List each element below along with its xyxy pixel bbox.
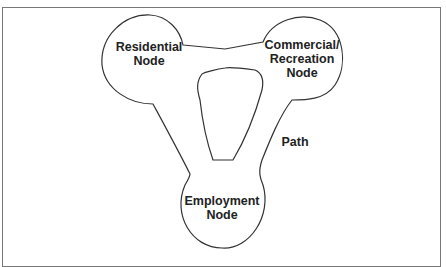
commercial-label-line2: Recreation xyxy=(262,52,342,66)
commercial-node-label: Commercial/ Recreation Node xyxy=(262,38,342,80)
residential-label-line1: Residential xyxy=(109,40,189,54)
residential-label-line2: Node xyxy=(109,54,189,68)
employment-node-label: Employment Node xyxy=(180,194,264,222)
commercial-label-line1: Commercial/ xyxy=(262,38,342,52)
commercial-label-line3: Node xyxy=(262,66,342,80)
residential-node-label: Residential Node xyxy=(109,40,189,68)
employment-label-line1: Employment xyxy=(180,194,264,208)
employment-label-line2: Node xyxy=(180,208,264,222)
path-label: Path xyxy=(280,135,310,149)
